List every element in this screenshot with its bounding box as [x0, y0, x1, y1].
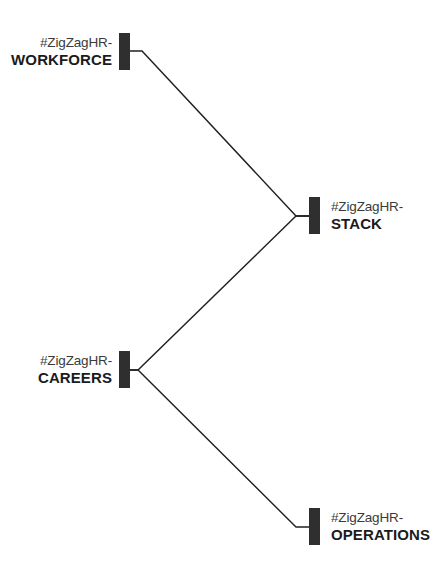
node-careers-label: #ZigZagHR- CAREERS: [38, 353, 119, 386]
node-workforce[interactable]: #ZigZagHR- WORKFORCE: [0, 33, 130, 70]
node-careers-prefix: #ZigZagHR-: [38, 353, 112, 369]
node-careers-marker: [119, 351, 130, 388]
edge-careers-to-stack: [130, 216, 309, 370]
node-workforce-label: #ZigZagHR- WORKFORCE: [11, 35, 119, 68]
node-stack[interactable]: #ZigZagHR- STACK: [309, 197, 445, 234]
node-operations[interactable]: #ZigZagHR- OPERATIONS: [309, 508, 445, 545]
node-workforce-prefix: #ZigZagHR-: [11, 35, 112, 51]
diagram-canvas: #ZigZagHR- WORKFORCE #ZigZagHR- STACK #Z…: [0, 0, 445, 577]
node-stack-prefix: #ZigZagHR-: [331, 199, 403, 215]
node-stack-marker: [309, 197, 320, 234]
node-operations-marker: [309, 508, 320, 545]
node-careers-name: CAREERS: [38, 369, 112, 386]
connector-lines-layer: [0, 0, 445, 577]
node-operations-prefix: #ZigZagHR-: [331, 510, 430, 526]
node-careers[interactable]: #ZigZagHR- CAREERS: [0, 351, 130, 388]
node-workforce-name: WORKFORCE: [11, 51, 112, 68]
node-operations-name: OPERATIONS: [331, 526, 430, 543]
node-stack-name: STACK: [331, 215, 403, 232]
node-stack-label: #ZigZagHR- STACK: [320, 199, 403, 232]
edge-careers-to-operations: [130, 370, 309, 527]
node-workforce-marker: [119, 33, 130, 70]
node-operations-label: #ZigZagHR- OPERATIONS: [320, 510, 430, 543]
edge-workforce-to-stack: [130, 51, 309, 216]
